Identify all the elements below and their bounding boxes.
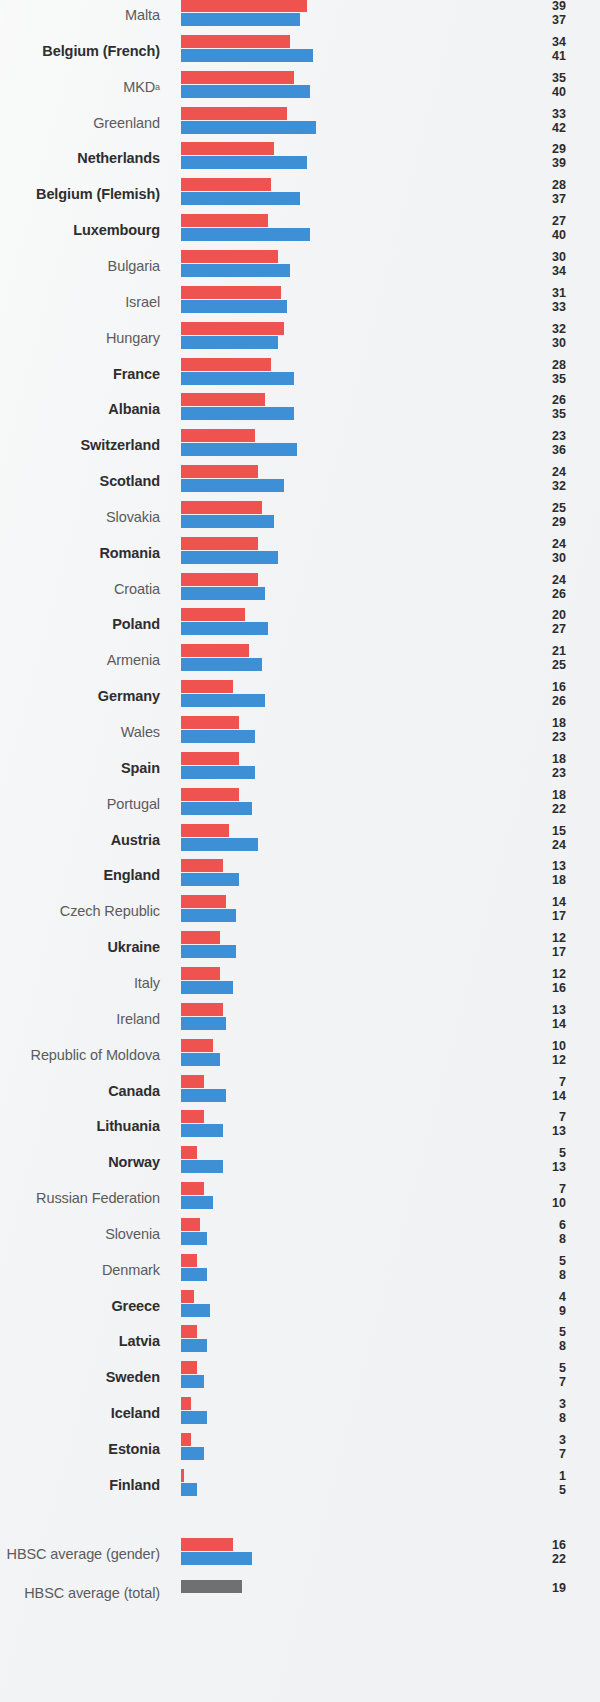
chart-row: Czech Republic1417 — [0, 894, 600, 928]
bar-boys — [181, 1218, 200, 1231]
row-label-text: Russian Federation — [36, 1190, 160, 1206]
bar-boys — [181, 1003, 223, 1016]
row-label-text: Denmark — [102, 1262, 160, 1278]
value-girls: 22 — [552, 802, 566, 816]
row-values: 2125 — [470, 643, 566, 677]
bar-boys — [181, 0, 307, 12]
bar-girls — [181, 228, 310, 241]
row-label-text: Poland — [112, 616, 160, 632]
value-boys: 31 — [552, 286, 566, 300]
bar-boys — [181, 214, 268, 227]
value-boys: 26 — [552, 393, 566, 407]
value-boys: 33 — [552, 107, 566, 121]
bar-girls — [181, 587, 265, 600]
row-label-text: Austria — [111, 832, 160, 848]
value-boys: 28 — [552, 358, 566, 372]
value-boys: 10 — [552, 1039, 566, 1053]
value-boys: 18 — [552, 716, 566, 730]
row-label: Hungary — [0, 321, 170, 355]
summary-row: HBSC average (total)19 — [0, 1576, 600, 1610]
chart-row: Netherlands2939 — [0, 141, 600, 175]
bar-boys — [181, 608, 245, 621]
bar-girls — [181, 873, 239, 886]
row-label: Austria — [0, 823, 170, 857]
row-values: 57 — [470, 1360, 566, 1394]
row-label: Albania — [0, 392, 170, 426]
row-values: 713 — [470, 1109, 566, 1143]
value-girls: 17 — [552, 945, 566, 959]
bar-girls — [181, 121, 316, 134]
row-values: 710 — [470, 1181, 566, 1215]
value-girls: 7 — [559, 1447, 566, 1461]
row-values: 2432 — [470, 464, 566, 498]
value-boys: 16 — [552, 1538, 566, 1552]
bar-girls — [181, 766, 255, 779]
row-label-text: Romania — [99, 545, 160, 561]
value-girls: 8 — [559, 1232, 566, 1246]
value-boys: 30 — [552, 250, 566, 264]
row-label-text: Bulgaria — [108, 258, 160, 274]
bar-boys — [181, 358, 271, 371]
row-label-text: Lithuania — [96, 1118, 160, 1134]
row-label: Armenia — [0, 643, 170, 677]
value-girls: 26 — [552, 587, 566, 601]
row-values: 3133 — [470, 285, 566, 319]
chart-row: Sweden57 — [0, 1360, 600, 1394]
bar-boys — [181, 824, 229, 837]
row-values: 37 — [470, 1432, 566, 1466]
value-girls: 8 — [559, 1268, 566, 1282]
row-label-text: Israel — [125, 294, 160, 310]
value-girls: 9 — [559, 1304, 566, 1318]
value-girls: 40 — [552, 85, 566, 99]
value-boys: 12 — [552, 967, 566, 981]
value-girls: 32 — [552, 479, 566, 493]
bar-girls — [181, 300, 287, 313]
row-label-text: Albania — [108, 401, 160, 417]
value-boys: 3 — [559, 1397, 566, 1411]
chart-row: Malta3937 — [0, 0, 600, 32]
value-boys: 24 — [552, 465, 566, 479]
bar-boys — [181, 1290, 194, 1303]
bar-girls — [181, 443, 297, 456]
row-label: England — [0, 858, 170, 892]
chart-row: Lithuania713 — [0, 1109, 600, 1143]
row-values: 2835 — [470, 357, 566, 391]
row-label: Denmark — [0, 1253, 170, 1287]
value-boys: 29 — [552, 142, 566, 156]
bar-girls — [181, 1196, 213, 1209]
value-girls: 37 — [552, 13, 566, 27]
bar-girls — [181, 1160, 223, 1173]
row-label: Scotland — [0, 464, 170, 498]
value-girls: 24 — [552, 838, 566, 852]
bar-boys — [181, 895, 226, 908]
bar-girls — [181, 156, 307, 169]
row-label-text: Latvia — [119, 1333, 160, 1349]
value-boys: 13 — [552, 859, 566, 873]
row-label-text: Armenia — [107, 652, 160, 668]
bar-boys — [181, 1433, 191, 1446]
row-label: Luxembourg — [0, 213, 170, 247]
bar-boys — [181, 1039, 213, 1052]
bar-boys — [181, 71, 294, 84]
value-girls: 30 — [552, 551, 566, 565]
row-label: Finland — [0, 1468, 170, 1502]
chart-row: Finland15 — [0, 1468, 600, 1502]
row-values: 3230 — [470, 321, 566, 355]
value-boys: 5 — [559, 1254, 566, 1268]
row-label: MKDa — [0, 70, 170, 104]
chart-row: Iceland38 — [0, 1396, 600, 1430]
value-girls: 41 — [552, 49, 566, 63]
row-label-text: Slovenia — [105, 1226, 160, 1242]
value-boys: 24 — [552, 537, 566, 551]
row-values: 1012 — [470, 1038, 566, 1072]
row-values: 2837 — [470, 177, 566, 211]
row-values: 2529 — [470, 500, 566, 534]
row-values: 1318 — [470, 858, 566, 892]
value-girls: 39 — [552, 156, 566, 170]
value-boys: 18 — [552, 788, 566, 802]
value-girls: 34 — [552, 264, 566, 278]
chart-row: Luxembourg2740 — [0, 213, 600, 247]
row-label: Latvia — [0, 1324, 170, 1358]
value-boys: 39 — [552, 0, 566, 13]
value-boys: 1 — [559, 1469, 566, 1483]
